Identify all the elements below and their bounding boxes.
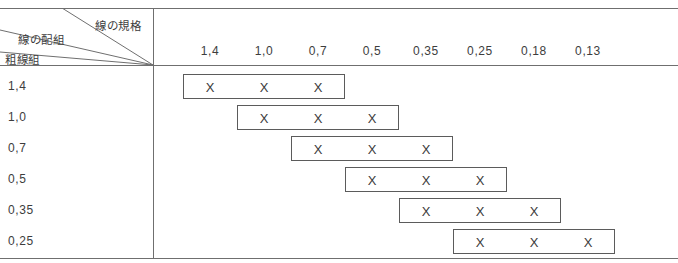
cell-mark-r3-c3: X: [345, 174, 399, 187]
column-header-1: 1,0: [237, 44, 291, 58]
column-header-7: 0,13: [561, 44, 615, 58]
compatibility-matrix-table: 線の規格 線の配組 粗線組 1,41,00,70,50,350,250,180,…: [0, 0, 678, 263]
column-header-2: 0,7: [291, 44, 345, 58]
cell-mark-r4-c6: X: [507, 205, 561, 218]
cell-mark-r2-c4: X: [399, 143, 453, 156]
cell-mark-r1-c3: X: [345, 112, 399, 125]
cell-mark-r2-c2: X: [291, 143, 345, 156]
corner-label-thick-group: 粗線組: [5, 51, 40, 67]
column-header-0: 1,4: [183, 44, 237, 58]
row-header-0: 1,4: [8, 79, 68, 93]
cell-mark-r5-c6: X: [507, 236, 561, 249]
row-header-5: 0,25: [8, 234, 68, 248]
column-header-3: 0,5: [345, 44, 399, 58]
cell-mark-r0-c2: X: [291, 81, 345, 94]
cell-mark-r5-c5: X: [453, 236, 507, 249]
cell-mark-r5-c7: X: [561, 236, 615, 249]
cell-mark-r1-c1: X: [237, 112, 291, 125]
row-header-4: 0,35: [8, 203, 68, 217]
cell-mark-r4-c4: X: [399, 205, 453, 218]
row-header-3: 0,5: [8, 172, 68, 186]
row-header-1: 1,0: [8, 110, 68, 124]
row-header-2: 0,7: [8, 141, 68, 155]
cell-mark-r4-c5: X: [453, 205, 507, 218]
column-header-5: 0,25: [453, 44, 507, 58]
table-bottom-rule: [0, 258, 678, 259]
column-header-6: 0,18: [507, 44, 561, 58]
corner-label-line-combination: 線の配組: [18, 31, 64, 47]
cell-mark-r0-c0: X: [183, 81, 237, 94]
cell-mark-r1-c2: X: [291, 112, 345, 125]
cell-mark-r3-c5: X: [453, 174, 507, 187]
cell-mark-r2-c3: X: [345, 143, 399, 156]
cell-mark-r3-c4: X: [399, 174, 453, 187]
corner-label-line-spec: 線の規格: [95, 17, 141, 33]
column-header-4: 0,35: [399, 44, 453, 58]
cell-mark-r0-c1: X: [237, 81, 291, 94]
